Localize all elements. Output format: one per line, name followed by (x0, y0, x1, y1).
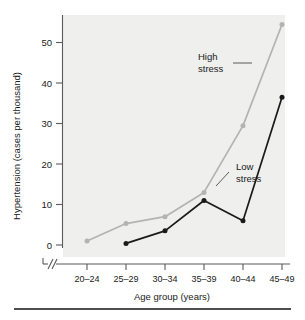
data-point-high-stress-3 (202, 190, 207, 195)
data-point-high-stress-0 (85, 238, 90, 243)
x-tick-label-40-44: 40–44 (230, 274, 255, 284)
data-point-high-stress-4 (241, 123, 246, 128)
data-point-high-stress-5 (280, 22, 285, 27)
axis-break-icon (48, 259, 57, 269)
chart-figure: 0 10 20 30 40 50 Hypertension (cases per… (0, 0, 305, 320)
data-point-low-stress-4 (280, 95, 285, 100)
data-point-low-stress-0 (124, 241, 129, 246)
y-tick-label-20: 20 (41, 159, 52, 170)
high-stress-label-line2: stress (198, 63, 224, 74)
plot-area-background (63, 15, 285, 257)
data-point-low-stress-3 (241, 218, 246, 223)
x-tick-label-25-29: 25–29 (113, 274, 138, 284)
y-tick-label-50: 50 (41, 37, 52, 48)
y-tick-label-40: 40 (41, 78, 52, 89)
y-tick-label-10: 10 (41, 199, 52, 210)
data-point-high-stress-2 (163, 214, 168, 219)
x-tick-label-20-24: 20–24 (74, 274, 99, 284)
y-tick-label-30: 30 (41, 118, 52, 129)
low-stress-label-line1: Low (236, 161, 254, 172)
x-tick-label-45-49: 45–49 (269, 274, 294, 284)
x-axis-title: Age group (years) (134, 291, 210, 302)
x-tick-marks (87, 264, 282, 270)
data-point-high-stress-1 (124, 221, 129, 226)
hypertension-line-chart: 0 10 20 30 40 50 Hypertension (cases per… (0, 0, 305, 320)
x-tick-label-35-39: 35–39 (191, 274, 216, 284)
y-tick-label-0: 0 (47, 240, 52, 251)
data-point-low-stress-2 (202, 198, 207, 203)
y-tick-marks (56, 43, 63, 246)
low-stress-label-line2: stress (236, 173, 262, 184)
data-point-low-stress-1 (163, 228, 168, 233)
y-axis-title: Hypertension (cases per thousand) (11, 72, 22, 220)
x-tick-label-30-34: 30–34 (152, 274, 177, 284)
high-stress-label-line1: High (198, 51, 218, 62)
